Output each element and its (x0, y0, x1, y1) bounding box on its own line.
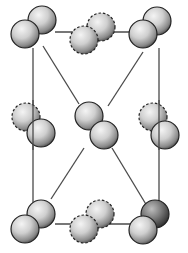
molecules (11, 6, 179, 244)
cell-edge-line (51, 148, 84, 199)
cell-edge-line (43, 46, 79, 104)
cell-edge-line (108, 52, 143, 106)
atom-sphere (151, 121, 179, 149)
atom-sphere (11, 20, 39, 48)
atom-sphere-dashed (70, 215, 98, 243)
molecule-corner-top-left (11, 6, 56, 48)
unit-cell-svg (0, 0, 188, 253)
molecule-corner-bottom-right (129, 200, 169, 244)
atom-sphere (129, 20, 157, 48)
molecule-edge-top-middle (70, 13, 115, 54)
crystal-unit-cell-diagram (0, 0, 188, 253)
molecule-corner-bottom-left (11, 200, 55, 243)
cell-edge-line (112, 148, 147, 206)
atom-sphere (129, 216, 157, 244)
atom-sphere-dashed (70, 26, 98, 54)
atom-sphere (11, 215, 39, 243)
molecule-body-center (75, 102, 118, 149)
atom-sphere (27, 119, 55, 147)
atom-sphere (90, 121, 118, 149)
molecule-edge-bottom-middle (70, 200, 114, 243)
molecule-corner-top-right (129, 7, 171, 48)
